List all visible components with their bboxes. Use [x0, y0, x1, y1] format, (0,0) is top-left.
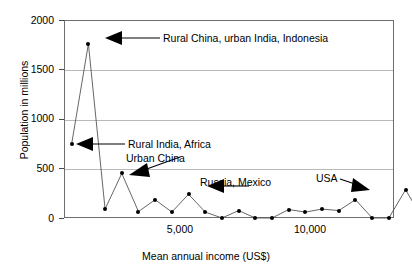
data-point — [387, 216, 391, 220]
annotation-label-russia-mexico: Russia, Mexico — [200, 176, 271, 188]
annotation-label-usa: USA — [316, 172, 338, 184]
data-point — [270, 216, 274, 220]
x-tick-label-10000: 10,000 — [294, 224, 326, 235]
data-point — [70, 142, 74, 146]
chart-figure: Population in millions 2000 1500 1000 50… — [0, 0, 412, 272]
y-tick-label-0: 0 — [8, 213, 54, 223]
data-point — [337, 209, 341, 213]
annotation-label-rural-china-urban-india-indonesia: Rural China, urban India, Indonesia — [163, 32, 328, 44]
annotation-label-rural-india-africa: Rural India, Africa — [128, 138, 211, 150]
gridline-1000 — [65, 120, 393, 121]
y-tick-label-500: 500 — [8, 163, 54, 173]
annotation-label-urban-china: Urban China — [126, 152, 185, 164]
data-point — [404, 188, 408, 192]
data-point — [237, 209, 241, 213]
y-tick-label-2000: 2000 — [8, 15, 54, 25]
data-point — [170, 210, 174, 214]
data-point — [370, 216, 374, 220]
y-axis-title: Population in millions — [18, 40, 30, 180]
y-tick-label-1500: 1500 — [8, 64, 54, 74]
y-tick-mark-0 — [59, 218, 64, 219]
data-point — [287, 208, 291, 212]
x-axis-title: Mean annual income (US$) — [0, 250, 412, 262]
data-point — [220, 216, 224, 220]
data-point — [253, 216, 257, 220]
gridline-500 — [65, 169, 393, 170]
data-point — [187, 192, 191, 196]
data-point — [153, 198, 157, 202]
plot-area — [64, 20, 394, 218]
gridline-1500 — [65, 70, 393, 71]
x-tick-label-5000: 5,000 — [167, 224, 193, 235]
y-tick-label-1000: 1000 — [8, 113, 54, 123]
